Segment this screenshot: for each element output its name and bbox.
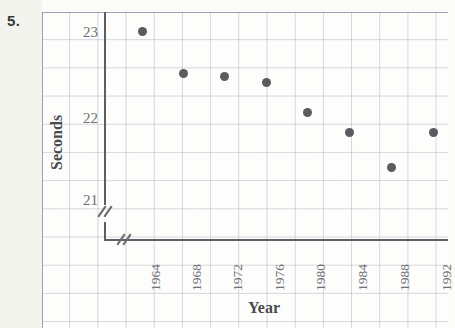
y-tick-label: 22: [64, 110, 98, 127]
x-tick-label: 1964: [148, 264, 164, 291]
x-tick-label: 1968: [189, 264, 205, 291]
data-point: [303, 108, 312, 117]
data-point: [345, 128, 354, 137]
data-point: [429, 128, 438, 137]
y-tick-label: 23: [64, 24, 98, 41]
x-tick-label: 1988: [397, 264, 413, 291]
x-tick-label: 1976: [272, 264, 288, 291]
data-point: [179, 69, 188, 78]
data-point: [387, 163, 396, 172]
y-axis-line: [104, 12, 106, 205]
x-axis-title: Year: [248, 299, 280, 317]
x-tick-label: 1984: [355, 264, 371, 291]
x-tick-label: 1972: [230, 264, 246, 291]
x-tick-label: 1992: [439, 264, 455, 291]
data-point: [138, 27, 147, 36]
data-point: [262, 78, 271, 87]
data-point: [220, 72, 229, 81]
y-tick-label: 21: [64, 192, 98, 209]
x-axis-line: [104, 239, 448, 241]
y-axis-title: Seconds: [48, 115, 66, 170]
x-tick-label: 1980: [313, 264, 329, 291]
